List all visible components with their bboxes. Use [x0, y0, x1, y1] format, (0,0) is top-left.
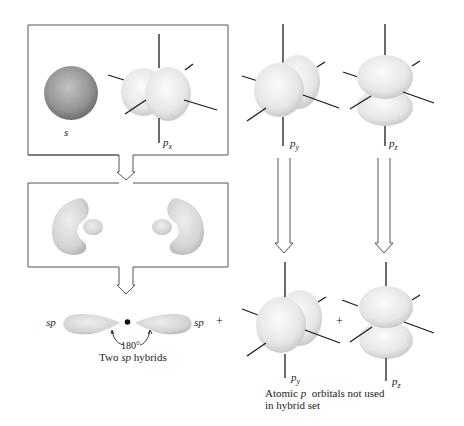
unused-caption-line1: Atomic p orbitals not used	[265, 387, 384, 399]
pz-label-top-sub: z	[395, 143, 398, 152]
sp-label-right: sp	[194, 316, 204, 328]
sp-label-left: sp	[46, 316, 56, 328]
py-orbital-bottom	[242, 262, 340, 378]
py-label-top: py	[290, 137, 299, 152]
unused-caption-pre: Atomic	[265, 387, 301, 399]
hybrids-caption: Two sp hybrids	[99, 351, 167, 363]
py-orbital-top	[242, 24, 339, 146]
box-hybridization	[28, 183, 228, 267]
pz-label-top: pz	[389, 137, 398, 152]
nucleus-dot	[125, 319, 131, 325]
hybrids-caption-sp: sp	[121, 351, 131, 363]
px-label: px	[163, 136, 172, 151]
pz-orbital-bottom	[342, 262, 434, 381]
plus-sign-1: +	[216, 315, 223, 327]
hybrids-caption-pre: Two	[99, 351, 121, 363]
arrow-py-down	[275, 158, 293, 253]
unused-orbitals-caption: Atomic p orbitals not used in hybrid set	[265, 387, 384, 411]
unused-caption-post: orbitals not used	[306, 387, 384, 399]
pz-label-bottom: pz	[392, 375, 401, 390]
py-label-bottom: py	[291, 371, 300, 386]
unused-caption-line2: in hybrid set	[265, 399, 384, 411]
pz-orbital-top	[343, 24, 434, 146]
plus-sign-2: +	[336, 315, 343, 327]
arrow-pz-down	[375, 158, 393, 253]
px-orbital	[108, 34, 217, 143]
pz-label-bottom-sub: z	[398, 381, 401, 390]
sp-hybridization-diagram: s px py pz sp sp + + 180° Two sp hybrids…	[0, 0, 464, 426]
hybrids-caption-post: hybrids	[131, 351, 167, 363]
s-orbital	[44, 66, 98, 120]
px-label-sub: x	[169, 142, 173, 151]
arrow-box1-to-box2	[117, 155, 135, 180]
box-atomic-orbitals	[28, 25, 228, 155]
s-orbital-label: s	[64, 126, 68, 138]
arrow-box2-to-hybrids	[117, 267, 135, 294]
py-label-bottom-sub: y	[297, 377, 301, 386]
py-label-top-sub: y	[296, 143, 300, 152]
